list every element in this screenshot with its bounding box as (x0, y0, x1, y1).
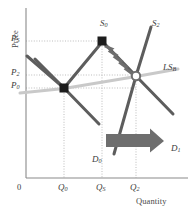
y-tick-label-ps: PS (11, 34, 20, 43)
curve-d0-sub: 0 (99, 158, 102, 164)
y-tick-label-p2: P2 (11, 68, 20, 77)
equilibrium-initial-marker (60, 84, 69, 93)
x-tick-qs-sub: S (103, 186, 106, 192)
curve-s0-sub: 0 (105, 22, 108, 28)
x-tick-label-qs: QS (96, 183, 106, 192)
y-tick-label-p0: P0 (11, 81, 20, 90)
x-axis-title: Quantity (136, 197, 167, 206)
y-tick-p2-sub: 2 (17, 71, 20, 77)
curve-d1-sub: 1 (178, 147, 181, 153)
y-tick-p0-sub: 0 (17, 84, 20, 90)
x-tick-q2-sub: 2 (137, 186, 140, 192)
supply-demand-diagram: Price Quantity 0 PS P2 P0 Q0 QS Q2 S0 S2… (0, 0, 192, 213)
long-run-supply-curve (20, 69, 178, 93)
supply-curve-0 (27, 41, 103, 88)
equilibrium-new-marker (132, 72, 140, 80)
x-tick-label-q0: Q0 (58, 183, 68, 192)
curve-label-s0: S0 (100, 19, 108, 28)
axes (26, 8, 188, 178)
curve-label-lsb: LSB (163, 63, 176, 72)
curve-lsb-sub: B (173, 66, 177, 72)
origin-label: 0 (17, 183, 21, 192)
x-tick-label-q2: Q2 (130, 183, 140, 192)
y-tick-ps-sub: S (17, 37, 20, 43)
curve-label-d0: D0 (92, 155, 102, 164)
curve-s2-sub: 2 (157, 22, 160, 28)
curve-lsb-base: LS (163, 62, 173, 72)
curve-label-s2: S2 (152, 19, 160, 28)
curve-label-d1: D1 (171, 144, 181, 153)
equilibrium-short-run-marker (98, 37, 107, 46)
x-tick-q0-sub: 0 (65, 186, 68, 192)
